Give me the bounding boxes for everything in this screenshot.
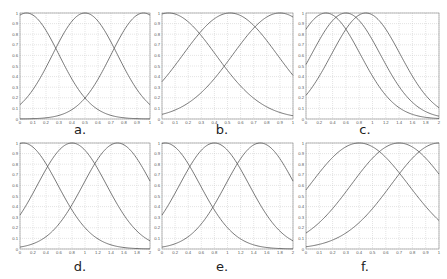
- x-tick-label: 0.2: [185, 120, 191, 125]
- y-tick-label: 0.3: [154, 215, 160, 220]
- x-tick-label: 2: [149, 250, 152, 255]
- x-tick-label: 1.2: [95, 250, 101, 255]
- y-tick-label: 0.1: [154, 236, 160, 241]
- y-tick-label: 0.5: [154, 64, 160, 69]
- y-tick-label: 0.8: [12, 32, 18, 37]
- y-tick-label: 0.9: [298, 151, 304, 156]
- y-tick-label: 1: [302, 141, 305, 146]
- membership-curve: [20, 13, 150, 105]
- y-tick-label: 0.2: [154, 95, 160, 100]
- y-tick-label: 0.7: [298, 42, 304, 47]
- y-tick-label: 0.4: [12, 204, 18, 209]
- y-tick-label: 1: [158, 141, 161, 146]
- subplot-d: 00.20.40.60.811.21.41.61.8200.10.20.30.4…: [20, 143, 150, 249]
- x-tick-label: 1.2: [238, 250, 244, 255]
- x-tick-label: 0.4: [185, 250, 191, 255]
- plot-e: 00.20.40.60.811.21.41.61.8200.10.20.30.4…: [162, 143, 293, 249]
- x-tick-label: 1: [292, 120, 295, 125]
- caption-f: f.: [345, 259, 385, 274]
- y-tick-label: 0.5: [12, 64, 18, 69]
- x-tick-label: 0.3: [343, 250, 349, 255]
- y-tick-label: 0.4: [154, 74, 160, 79]
- x-tick-label: 1: [84, 250, 87, 255]
- y-tick-label: 1: [16, 11, 19, 16]
- y-tick-label: 0.2: [12, 225, 18, 230]
- x-tick-label: 0.2: [30, 250, 36, 255]
- y-tick-label: 0.3: [12, 215, 18, 220]
- x-tick-label: 0.9: [134, 120, 140, 125]
- x-tick-label: 0.4: [330, 120, 336, 125]
- y-tick-label: 0.7: [154, 42, 160, 47]
- x-tick-label: 1.4: [396, 120, 402, 125]
- x-tick-label: 0.4: [356, 250, 362, 255]
- x-tick-label: 1: [438, 250, 441, 255]
- y-tick-label: 0.6: [298, 53, 304, 58]
- x-tick-label: 0.7: [108, 120, 114, 125]
- y-tick-label: 0.8: [298, 162, 304, 167]
- x-tick-label: 1.6: [264, 250, 270, 255]
- y-tick-label: 0.9: [12, 21, 18, 26]
- plot-f: 00.10.20.30.40.50.60.70.80.9100.10.20.30…: [306, 143, 439, 249]
- y-tick-label: 0.6: [12, 183, 18, 188]
- x-tick-label: 0.2: [316, 120, 322, 125]
- x-tick-label: 0.6: [383, 250, 389, 255]
- plot-a: 00.10.20.30.40.50.60.70.80.9100.10.20.30…: [20, 13, 150, 119]
- y-tick-label: 0.9: [154, 21, 160, 26]
- y-tick-label: 0.5: [298, 64, 304, 69]
- y-tick-label: 0.7: [154, 172, 160, 177]
- x-tick-label: 0.2: [172, 250, 178, 255]
- x-tick-label: 1.6: [121, 250, 127, 255]
- caption-a: a.: [60, 122, 100, 137]
- y-tick-label: 1: [302, 11, 305, 16]
- y-tick-label: 0.1: [12, 236, 18, 241]
- x-tick-label: 0: [305, 120, 308, 125]
- x-tick-label: 0.1: [172, 120, 178, 125]
- y-tick-label: 1: [158, 11, 161, 16]
- x-tick-label: 0.7: [251, 120, 257, 125]
- x-tick-label: 1.8: [277, 250, 283, 255]
- x-tick-label: 0.2: [43, 120, 49, 125]
- y-tick-label: 0.4: [298, 74, 304, 79]
- x-tick-label: 2: [292, 250, 295, 255]
- subplot-a: 00.10.20.30.40.50.60.70.80.9100.10.20.30…: [20, 13, 150, 119]
- y-tick-label: 0.2: [12, 95, 18, 100]
- x-tick-label: 0.6: [198, 250, 204, 255]
- y-tick-label: 0.8: [12, 162, 18, 167]
- x-tick-label: 0.6: [56, 250, 62, 255]
- x-tick-label: 1.8: [423, 120, 429, 125]
- x-tick-label: 0.8: [264, 120, 270, 125]
- caption-b: b.: [202, 122, 242, 137]
- y-tick-label: 0.4: [154, 204, 160, 209]
- x-tick-label: 0: [19, 250, 22, 255]
- plot-d: 00.20.40.60.811.21.41.61.8200.10.20.30.4…: [20, 143, 150, 249]
- x-tick-label: 0.7: [396, 250, 402, 255]
- y-tick-label: 0.1: [12, 106, 18, 111]
- y-tick-label: 0.1: [298, 236, 304, 241]
- x-tick-label: 0.8: [211, 250, 217, 255]
- y-tick-label: 0.8: [154, 32, 160, 37]
- subplot-f: 00.10.20.30.40.50.60.70.80.9100.10.20.30…: [306, 143, 439, 249]
- membership-curve: [162, 13, 293, 116]
- x-tick-label: 1: [149, 120, 152, 125]
- y-tick-label: 0.7: [12, 42, 18, 47]
- x-tick-label: 0.8: [69, 250, 75, 255]
- caption-c: c.: [345, 122, 385, 137]
- x-tick-label: 0.8: [121, 120, 127, 125]
- x-tick-label: 1.6: [409, 120, 415, 125]
- x-tick-label: 1: [226, 250, 229, 255]
- x-tick-label: 0: [19, 120, 22, 125]
- y-tick-label: 0.6: [154, 183, 160, 188]
- y-tick-label: 0.3: [154, 85, 160, 90]
- y-tick-label: 0.9: [12, 151, 18, 156]
- y-tick-label: 0.5: [298, 194, 304, 199]
- x-tick-label: 0.5: [370, 250, 376, 255]
- subplot-c: 00.20.40.60.811.21.41.61.8200.10.20.30.4…: [306, 13, 439, 119]
- x-tick-label: 0.1: [316, 250, 322, 255]
- y-tick-label: 0.5: [12, 194, 18, 199]
- y-tick-label: 0.9: [154, 151, 160, 156]
- x-tick-label: 1.8: [134, 250, 140, 255]
- x-tick-label: 0.9: [277, 120, 283, 125]
- y-tick-label: 0.6: [154, 53, 160, 58]
- subplot-e: 00.20.40.60.811.21.41.61.8200.10.20.30.4…: [162, 143, 293, 249]
- y-tick-label: 0.4: [298, 204, 304, 209]
